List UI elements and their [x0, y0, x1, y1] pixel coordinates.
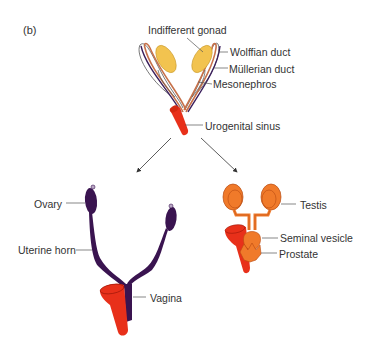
arrow-to-male — [201, 138, 237, 172]
label-indifferent-gonad: Indifferent gonad — [148, 24, 227, 36]
female-urogenital-sinus — [99, 282, 128, 335]
label-ovary: Ovary — [34, 198, 62, 210]
left-ovary — [84, 188, 98, 215]
label-mesonephros: Mesonephros — [213, 78, 277, 90]
label-seminal-vesicle: Seminal vesicle — [280, 232, 353, 244]
label-mullerian-duct: Müllerian duct — [229, 63, 294, 75]
label-prostate: Prostate — [279, 248, 318, 260]
reproductive-development-diagram — [0, 0, 367, 353]
label-wolffian-duct: Wolffian duct — [230, 46, 290, 58]
label-uterine-horn: Uterine horn — [18, 244, 76, 256]
arrow-to-female — [137, 138, 171, 172]
right-testis — [261, 184, 281, 210]
label-urogenital-sinus: Urogenital sinus — [205, 120, 280, 132]
label-vagina: Vagina — [150, 292, 182, 304]
label-testis: Testis — [300, 199, 327, 211]
male-tract — [223, 184, 281, 273]
left-testis — [223, 184, 243, 210]
right-ovary — [164, 206, 178, 231]
